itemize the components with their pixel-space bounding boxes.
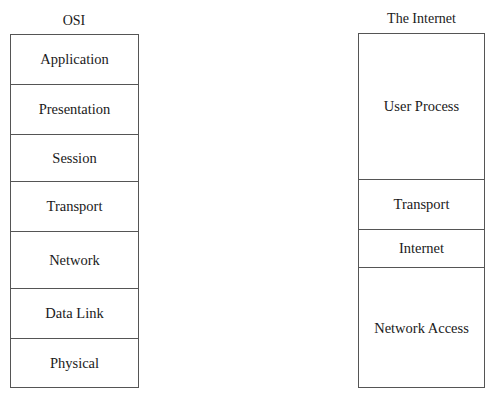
internet-layer-network-access: Network Access xyxy=(359,267,484,388)
internet-layer-user-process: User Process xyxy=(359,34,484,179)
osi-layer-network: Network xyxy=(11,231,138,288)
osi-layer-data-link: Data Link xyxy=(11,288,138,338)
internet-layer-internet: Internet xyxy=(359,229,484,267)
internet-title: The Internet xyxy=(358,11,485,27)
osi-title: OSI xyxy=(10,13,138,29)
osi-layer-physical: Physical xyxy=(11,338,138,388)
osi-stack: Application Presentation Session Transpo… xyxy=(10,34,139,388)
osi-layer-presentation: Presentation xyxy=(11,84,138,134)
osi-layer-transport: Transport xyxy=(11,181,138,231)
internet-layer-transport: Transport xyxy=(359,179,484,229)
osi-layer-session: Session xyxy=(11,134,138,181)
osi-layer-application: Application xyxy=(11,35,138,84)
internet-stack: User Process Transport Internet Network … xyxy=(358,33,485,388)
